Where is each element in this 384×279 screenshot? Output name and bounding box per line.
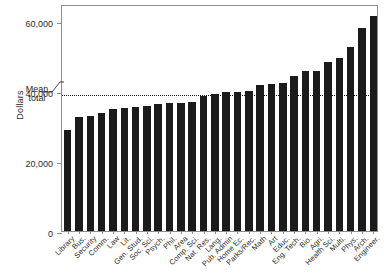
bar (200, 96, 207, 232)
bar (166, 103, 173, 231)
y-tick-label-3: 60,000 (25, 19, 53, 29)
bar (154, 104, 161, 231)
bar (279, 83, 286, 231)
bar (87, 116, 94, 231)
bar (256, 85, 263, 231)
bar-chart-figure: Dollars 020,00040,00060,000 Mean total L… (0, 0, 384, 279)
bar (234, 92, 241, 231)
plot-area: 020,00040,00060,000 (61, 5, 378, 232)
bar (98, 113, 105, 231)
bar (245, 91, 252, 231)
bar (324, 62, 331, 231)
bar (143, 106, 150, 231)
bar (268, 84, 275, 231)
y-axis-title: Dollars (15, 55, 25, 155)
bar (290, 76, 297, 231)
bar (313, 71, 320, 231)
bar (64, 130, 71, 231)
bar (358, 28, 365, 231)
bar (109, 109, 116, 231)
x-axis-category-labels: LibraryBus.SecurityComm.LawLit.Gen. Stud… (61, 234, 378, 279)
mean-total-label-line2: total (16, 94, 58, 103)
bar (211, 94, 218, 231)
bar (370, 16, 377, 231)
bar-series (62, 6, 377, 231)
bar (75, 117, 82, 231)
mean-total-annotation: Mean total (16, 85, 58, 103)
bar (132, 107, 139, 231)
y-tick-label-1: 20,000 (25, 159, 53, 169)
bar (177, 103, 184, 231)
bar (347, 47, 354, 231)
bar (222, 92, 229, 231)
y-tick-label-0: 0 (48, 229, 53, 239)
bar (188, 102, 195, 231)
bar (121, 108, 128, 231)
bar (302, 71, 309, 231)
bar (336, 58, 343, 231)
